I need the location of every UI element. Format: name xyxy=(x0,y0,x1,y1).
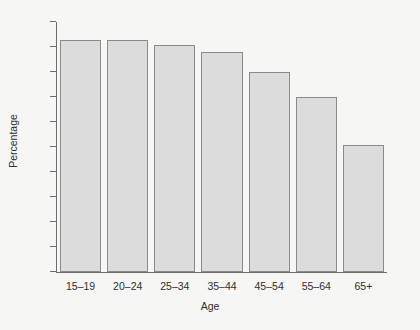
y-tick-mark xyxy=(50,146,56,147)
y-tick-mark xyxy=(50,21,56,22)
y-tick-mark xyxy=(50,71,56,72)
bar xyxy=(154,45,195,273)
y-tick-mark xyxy=(50,221,56,222)
y-tick-mark xyxy=(50,196,56,197)
bar-chart: 0102030405060708090100 15–1920–2425–3435… xyxy=(0,0,420,330)
x-axis-title: Age xyxy=(0,300,420,312)
bar xyxy=(201,52,242,272)
x-tick-label: 20–24 xyxy=(104,279,151,293)
y-tick-mark xyxy=(50,96,56,97)
x-tick-label: 55–64 xyxy=(293,279,340,293)
bar xyxy=(296,97,337,272)
bar xyxy=(107,40,148,273)
y-tick-mark xyxy=(50,46,56,47)
x-tick-label: 15–19 xyxy=(57,279,104,293)
y-axis-title: Percentage xyxy=(7,81,19,201)
x-tick-label: 25–34 xyxy=(151,279,198,293)
bar xyxy=(343,145,384,273)
y-tick-mark xyxy=(50,246,56,247)
x-tick-label: 45–54 xyxy=(246,279,293,293)
y-tick-mark xyxy=(50,121,56,122)
x-tick-label: 65+ xyxy=(340,279,387,293)
bar xyxy=(60,40,101,273)
x-tick-label: 35–44 xyxy=(198,279,245,293)
x-axis-line xyxy=(56,272,387,273)
y-tick-mark xyxy=(50,271,56,272)
plot-area xyxy=(57,22,387,272)
y-tick-mark xyxy=(50,171,56,172)
bar xyxy=(249,72,290,272)
